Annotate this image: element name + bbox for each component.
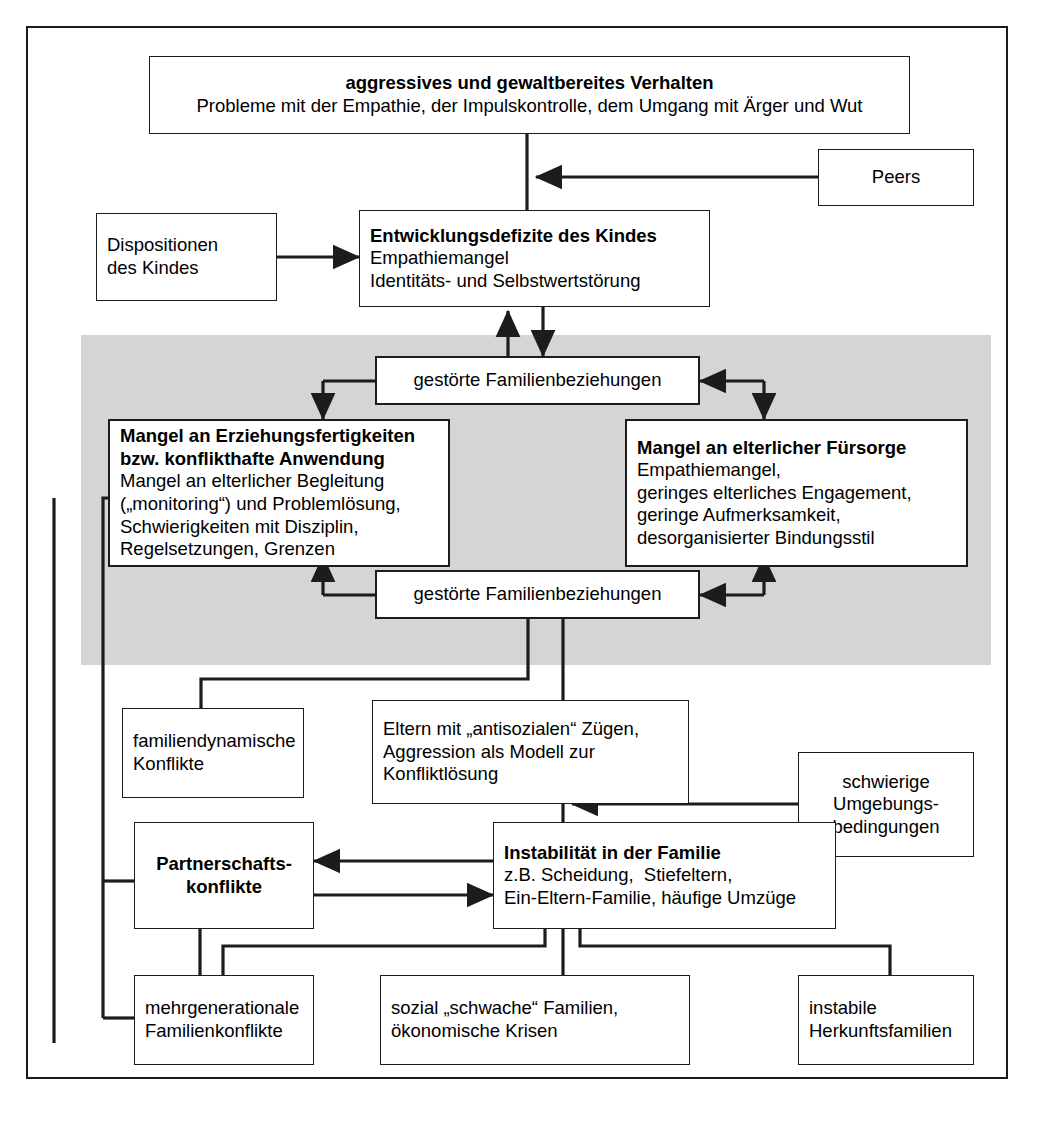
node-line: gestörte Familienbeziehungen bbox=[385, 369, 690, 392]
node-instabilitaet-in-der-familie[interactable]: Instabilität in der Familie z.B. Scheidu… bbox=[493, 822, 836, 929]
node-line: Partnerschafts- bbox=[143, 853, 305, 876]
node-line: Konfliktlösung bbox=[383, 763, 678, 786]
node-sozial-schwache-familien[interactable]: sozial „schwache“ Familien, ökonomische … bbox=[380, 975, 690, 1065]
node-line: familiendynamische bbox=[133, 730, 293, 753]
node-line: („monitoring“) und Problemlösung, bbox=[120, 493, 438, 516]
node-line: mehrgenerationale bbox=[145, 997, 303, 1020]
node-partnerschaftskonflikte[interactable]: Partnerschafts- konflikte bbox=[134, 822, 314, 929]
node-line: desorganisierter Bindungsstil bbox=[637, 527, 956, 550]
node-line: Aggression als Modell zur bbox=[383, 741, 678, 764]
node-line: bzw. konflikthafte Anwendung bbox=[120, 448, 438, 471]
node-line: des Kindes bbox=[107, 257, 266, 280]
node-line: sozial „schwache“ Familien, bbox=[391, 997, 679, 1020]
node-line: Empathiemangel, bbox=[637, 459, 956, 482]
node-aggressives-verhalten[interactable]: aggressives und gewaltbereites Verhalten… bbox=[149, 56, 910, 134]
node-line: Schwierigkeiten mit Disziplin, bbox=[120, 516, 438, 539]
node-line: Eltern mit „antisozialen“ Zügen, bbox=[383, 718, 678, 741]
node-gestoerte-familienbeziehungen-unten[interactable]: gestörte Familienbeziehungen bbox=[375, 570, 700, 619]
node-line: Instabilität in der Familie bbox=[504, 842, 825, 865]
node-familiendynamische-konflikte[interactable]: familiendynamische Konflikte bbox=[122, 708, 304, 798]
node-line: Mangel an elterlicher Fürsorge bbox=[637, 437, 956, 460]
node-line: Probleme mit der Empathie, der Impulskon… bbox=[158, 95, 901, 118]
node-mehrgenerationale-familienkonflikte[interactable]: mehrgenerationale Familienkonflikte bbox=[134, 975, 314, 1065]
node-line: Familienkonflikte bbox=[145, 1020, 303, 1043]
node-line: Regelsetzungen, Grenzen bbox=[120, 538, 438, 561]
node-line: geringes elterliches Engagement, bbox=[637, 482, 956, 505]
node-line: Dispositionen bbox=[107, 234, 266, 257]
node-line: geringe Aufmerksamkeit, bbox=[637, 504, 956, 527]
node-line: ökonomische Krisen bbox=[391, 1020, 679, 1043]
node-line: Herkunftsfamilien bbox=[809, 1020, 963, 1043]
node-entwicklungsdefizite[interactable]: Entwicklungsdefizite des Kindes Empathie… bbox=[359, 210, 710, 307]
node-line: z.B. Scheidung, Stiefeltern, bbox=[504, 864, 825, 887]
diagram-canvas: aggressives und gewaltbereites Verhalten… bbox=[0, 0, 1037, 1133]
node-line: Empathiemangel bbox=[370, 247, 699, 270]
node-line: instabile bbox=[809, 997, 963, 1020]
node-mangel-an-erziehungsfertigkeiten[interactable]: Mangel an Erziehungsfertigkeiten bzw. ko… bbox=[108, 419, 450, 567]
node-line: aggressives und gewaltbereites Verhalten bbox=[158, 72, 901, 95]
node-mangel-an-elterlicher-fuersorge[interactable]: Mangel an elterlicher Fürsorge Empathiem… bbox=[625, 419, 968, 567]
node-line: Entwicklungsdefizite des Kindes bbox=[370, 225, 699, 248]
node-line: schwierige bbox=[807, 771, 965, 794]
node-line: Mangel an Erziehungsfertigkeiten bbox=[120, 425, 438, 448]
node-peers[interactable]: Peers bbox=[818, 149, 974, 206]
node-line: Peers bbox=[827, 166, 965, 189]
node-line: Mangel an elterlicher Begleitung bbox=[120, 470, 438, 493]
node-instabile-herkunftsfamilien[interactable]: instabile Herkunftsfamilien bbox=[798, 975, 974, 1065]
node-line: gestörte Familienbeziehungen bbox=[385, 583, 690, 606]
node-line: Umgebungs- bbox=[807, 793, 965, 816]
node-line: Ein-Eltern-Familie, häufige Umzüge bbox=[504, 887, 825, 910]
node-line: Konflikte bbox=[133, 753, 293, 776]
node-gestoerte-familienbeziehungen-oben[interactable]: gestörte Familienbeziehungen bbox=[375, 356, 700, 405]
node-dispositionen-des-kindes[interactable]: Dispositionen des Kindes bbox=[96, 213, 277, 301]
node-line: Identitäts- und Selbstwertstörung bbox=[370, 270, 699, 293]
node-eltern-antisoziale-zuege[interactable]: Eltern mit „antisozialen“ Zügen, Aggress… bbox=[372, 700, 689, 804]
node-line: konflikte bbox=[143, 876, 305, 899]
